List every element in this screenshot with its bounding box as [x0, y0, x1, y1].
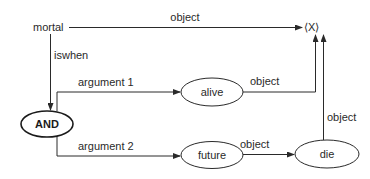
edge-label-die-x: object: [327, 111, 356, 123]
node-die: die: [295, 140, 359, 168]
edge-label-mortal-x: object: [170, 11, 199, 23]
edge-die-to-x: object: [324, 35, 357, 140]
edge-and-to-alive: argument 1: [57, 76, 180, 111]
edge-label-future-die: object: [240, 138, 269, 150]
node-alive: alive: [181, 78, 243, 106]
node-future: future: [181, 142, 243, 169]
edge-future-to-die: object: [240, 138, 294, 155]
edge-mortal-to-x: object: [69, 11, 302, 28]
node-label-future: future: [198, 149, 226, 161]
node-label-die: die: [320, 148, 335, 160]
node-and: AND: [21, 111, 73, 137]
semantic-network-diagram: object iswhen argument 1 argument 2 obje…: [0, 0, 370, 179]
edge-alive-to-x: object: [243, 35, 316, 92]
edge-label-alive-x: object: [250, 75, 279, 87]
node-x: ⟨X⟩: [304, 21, 319, 33]
node-label-alive: alive: [201, 86, 224, 98]
edge-mortal-to-and: iswhen: [51, 34, 89, 110]
node-label-and: AND: [35, 118, 59, 130]
node-label-x: ⟨X⟩: [304, 21, 319, 33]
edge-label-and-alive: argument 1: [78, 76, 134, 88]
edge-and-to-future: argument 2: [57, 137, 180, 156]
edge-label-mortal-and: iswhen: [54, 49, 88, 61]
node-mortal: mortal: [33, 21, 64, 33]
edge-label-and-future: argument 2: [78, 140, 134, 152]
node-label-mortal: mortal: [33, 21, 64, 33]
